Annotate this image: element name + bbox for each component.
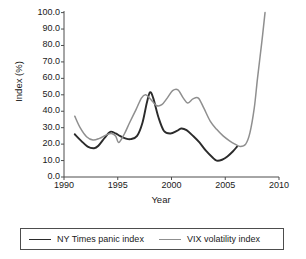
x-tick-label: 2010 — [259, 180, 299, 190]
legend-label-vix-volatility-index: VIX volatility index — [187, 234, 260, 244]
x-tick-label: 1995 — [98, 180, 138, 190]
line-chart-figure: Index (%) 0.010.020.030.040.050.060.070.… — [0, 0, 306, 215]
legend-swatch-ny-times-panic-index — [29, 239, 51, 240]
legend-item-ny-times-panic-index: NY Times panic index — [29, 234, 144, 244]
legend-label-ny-times-panic-index: NY Times panic index — [57, 234, 144, 244]
chart-legend: NY Times panic index VIX volatility inde… — [20, 228, 284, 250]
legend-swatch-vix-volatility-index — [159, 239, 181, 240]
series-line-vix-volatility-index — [75, 13, 265, 147]
series-line-ny-times-panic-index — [75, 92, 237, 161]
x-axis-tick-labels: 19901995200020052010 — [0, 180, 306, 194]
x-tick-label: 1990 — [44, 180, 84, 190]
legend-item-vix-volatility-index: VIX volatility index — [159, 234, 260, 244]
x-axis-title-text: Year — [151, 194, 170, 205]
data-series-paths — [75, 13, 265, 161]
x-tick-label: 2005 — [205, 180, 245, 190]
axis-lines — [64, 11, 279, 177]
x-tick-label: 2000 — [152, 180, 192, 190]
chart-screenshot: Index (%) 0.010.020.030.040.050.060.070.… — [0, 0, 306, 259]
x-axis-title: Year — [0, 194, 306, 205]
